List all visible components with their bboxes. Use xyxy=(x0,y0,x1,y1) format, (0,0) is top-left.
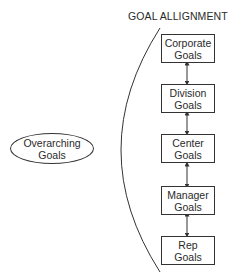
center-goals-node: Center Goals xyxy=(161,134,215,163)
node-label-line1: Overarching xyxy=(23,137,80,149)
corporate-goals-node: Corporate Goals xyxy=(161,34,215,63)
alignment-arc xyxy=(121,28,160,272)
manager-goals-node: Manager Goals xyxy=(161,186,215,215)
rep-goals-node: Rep Goals xyxy=(161,236,215,265)
overarching-goals-node: Overarching Goals xyxy=(10,133,94,164)
node-label-line2: Goals xyxy=(174,251,201,263)
node-label-line1: Corporate xyxy=(165,37,212,49)
node-label-line1: Manager xyxy=(167,189,208,201)
node-label-line1: Rep xyxy=(178,239,197,251)
node-label-line1: Division xyxy=(170,87,207,99)
division-goals-node: Division Goals xyxy=(161,84,215,113)
node-label-line2: Goals xyxy=(174,201,201,213)
node-label-line2: Goals xyxy=(174,99,201,111)
node-label-line2: Goals xyxy=(174,49,201,61)
node-label-line2: Goals xyxy=(174,149,201,161)
node-label-line2: Goals xyxy=(38,149,65,161)
node-label-line1: Center xyxy=(172,137,204,149)
